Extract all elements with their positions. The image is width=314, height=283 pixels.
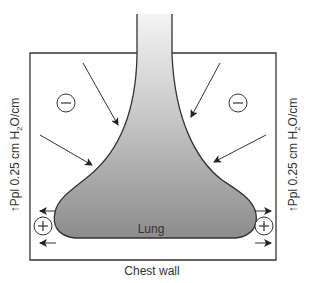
- right-pleural-pressure-label: ↑Ppl 0.25 cm H2O/cm: [286, 98, 302, 213]
- arrow-mid-right: [214, 135, 266, 162]
- lung-shape: [54, 14, 256, 238]
- arrow-upper-left: [83, 63, 118, 125]
- arrow-mid-left: [40, 135, 92, 165]
- left-pleural-pressure-label: ↑Ppl 0.25 cm H2O/cm: [8, 98, 24, 213]
- negative-pressure-icon-right: [229, 94, 247, 112]
- positive-pressure-icon-left: [34, 217, 52, 235]
- chest-wall-label: Chest wall: [124, 264, 179, 278]
- lung-chest-wall-diagram: Lung Chest wall ↑Ppl 0.25 cm H2O/cm ↑Ppl…: [0, 0, 314, 283]
- arrow-upper-right: [191, 63, 220, 117]
- negative-pressure-icon-left: [57, 94, 75, 112]
- positive-pressure-icon-right: [255, 217, 273, 235]
- lung-label: Lung: [138, 222, 165, 236]
